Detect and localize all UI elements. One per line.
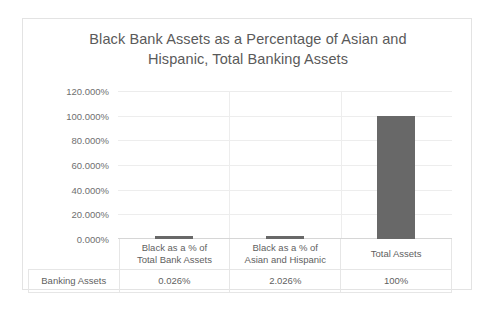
table-row-banking-assets: Banking Assets 0.026% 2.026% 100% [29, 270, 452, 293]
y-axis: 120.000% 100.000% 80.000% 60.000% 40.000… [43, 91, 113, 239]
chart-frame: Black Bank Assets as a Percentage of Asi… [22, 18, 472, 290]
chart-title: Black Bank Assets as a Percentage of Asi… [41, 29, 455, 69]
y-tick-label-20: 20.000% [71, 209, 109, 220]
category-header-0-line-2: Total Bank Assets [120, 254, 230, 266]
category-separator-1 [229, 91, 230, 239]
category-header-1: Black as a % of Asian and Hispanic [230, 239, 341, 270]
table-row-categories: Black as a % of Total Bank Assets Black … [29, 239, 452, 270]
category-header-0: Black as a % of Total Bank Assets [119, 239, 230, 270]
value-cell-2: 100% [341, 270, 452, 293]
value-cell-1: 2.026% [230, 270, 341, 293]
category-header-1-line-2: Asian and Hispanic [230, 254, 340, 266]
category-row-corner [29, 239, 120, 270]
chart-title-line-1: Black Bank Assets as a Percentage of Asi… [41, 29, 455, 49]
category-header-2-line-1: Total Assets [341, 248, 451, 260]
category-separator-2 [341, 91, 342, 239]
data-table: Black as a % of Total Bank Assets Black … [28, 239, 452, 293]
y-tick-label-100: 100.000% [66, 110, 109, 121]
y-tick-label-80: 80.000% [71, 135, 109, 146]
category-header-2: Total Assets [341, 239, 452, 270]
series-name-banking-assets: Banking Assets [29, 270, 120, 293]
chart-title-line-2: Hispanic, Total Banking Assets [41, 49, 455, 69]
y-tick-label-120: 120.000% [66, 86, 109, 97]
plot-area [118, 91, 452, 239]
y-tick-label-60: 60.000% [71, 160, 109, 171]
bar-total-assets[interactable] [377, 116, 415, 239]
y-tick-label-40: 40.000% [71, 184, 109, 195]
value-cell-0: 0.026% [119, 270, 230, 293]
category-header-0-line-1: Black as a % of [120, 242, 230, 254]
category-header-1-line-1: Black as a % of [230, 242, 340, 254]
